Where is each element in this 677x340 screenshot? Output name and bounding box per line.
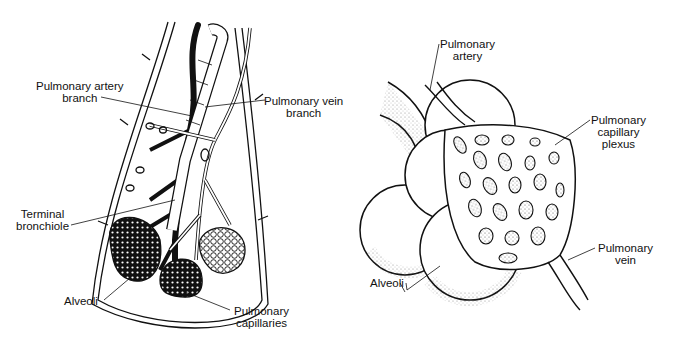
left-lobule-diagram [92,22,268,328]
label-terminal-bronchiole: Terminal bronchiole [16,208,69,232]
label-alveoli-right: Alveoli [370,277,404,289]
label-line: branch [264,107,343,119]
label-line: plexus [591,138,646,150]
label-line: capillaries [234,317,289,329]
label-pulmonary-vein-branch: Pulmonary vein branch [264,95,343,119]
label-pulmonary-artery: Pulmonary artery [440,38,495,62]
label-line: Alveoli [64,295,98,307]
label-alveoli-left: Alveoli [64,295,98,307]
label-pulmonary-capillary-plexus: Pulmonary capillary plexus [591,114,646,150]
label-line: Pulmonary [591,114,646,126]
diagram-canvas [0,0,677,340]
right-alveoli-diagram [360,80,588,310]
label-line: Terminal [16,208,69,220]
label-line: Pulmonary [440,38,495,50]
label-line: branch [36,92,124,104]
label-line: artery [440,50,495,62]
label-line: Pulmonary vein [264,95,343,107]
label-line: Pulmonary [598,242,653,254]
label-line: bronchiole [16,220,69,232]
label-pulmonary-capillaries: Pulmonary capillaries [234,305,289,329]
label-line: Pulmonary artery [36,80,124,92]
label-pulmonary-vein: Pulmonary vein [598,242,653,266]
label-pulmonary-artery-branch: Pulmonary artery branch [36,80,124,104]
label-line: Pulmonary [234,305,289,317]
label-line: vein [598,254,653,266]
label-line: capillary [591,126,646,138]
label-line: Alveoli [370,277,404,289]
